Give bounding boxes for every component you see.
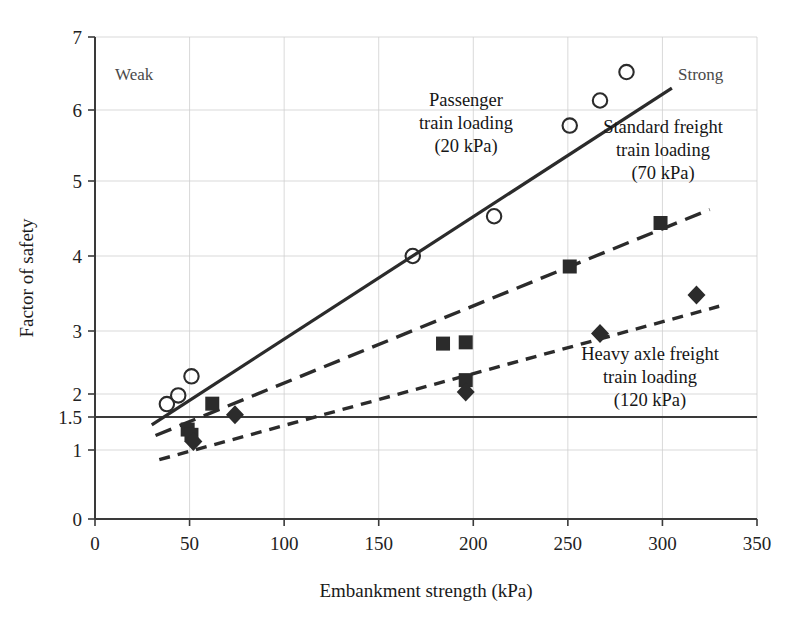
marker-open-circle (619, 65, 633, 79)
y-tick-label: 4 (73, 246, 83, 267)
x-tick-label: 250 (554, 533, 583, 554)
standard-freight-annotation: Standard freight train loading (70 kPa) (603, 117, 724, 184)
y-tick-label: 1.5 (58, 407, 82, 428)
heavy-axle-annotation-line-1: Heavy axle freight (581, 344, 720, 364)
y-tick-label: 7 (73, 27, 83, 48)
marker-open-circle (563, 118, 577, 132)
heavy-axle-annotation: Heavy axle freight train loading (120 kP… (581, 344, 720, 411)
passenger-annotation-line-2: train loading (419, 113, 513, 133)
passenger-annotation: Passenger train loading (20 kPa) (419, 90, 513, 157)
marker-open-circle (171, 388, 185, 402)
chart-container: 050100150200250300350011.5234567 Embankm… (0, 0, 804, 618)
y-tick-label: 1 (73, 440, 83, 461)
marker-open-circle (593, 93, 607, 107)
y-tick-label: 0 (73, 509, 83, 530)
y-axis-title: Factor of safety (16, 218, 37, 338)
x-tick-label: 50 (180, 533, 199, 554)
marker-filled-diamond (226, 405, 244, 424)
weak-label: Weak (115, 65, 154, 84)
x-tick-label: 200 (459, 533, 488, 554)
standard-freight-annotation-line-2: train loading (616, 140, 710, 160)
marker-filled-square (563, 260, 577, 274)
marker-open-circle (487, 209, 501, 223)
x-tick-label: 150 (364, 533, 393, 554)
y-tick-label: 2 (73, 384, 83, 405)
marker-filled-square (436, 337, 450, 351)
x-tick-label: 0 (90, 533, 100, 554)
y-tick-label: 3 (73, 321, 83, 342)
factor-of-safety-scatter-chart: 050100150200250300350011.5234567 Embankm… (0, 0, 804, 618)
marker-filled-square (205, 397, 219, 411)
marker-filled-square (459, 335, 473, 349)
tick-labels: 050100150200250300350011.5234567 (58, 27, 771, 554)
marker-filled-diamond (591, 324, 609, 343)
heavy-axle-annotation-line-3: (120 kPa) (614, 390, 686, 411)
strong-label: Strong (678, 65, 724, 84)
marker-filled-diamond (687, 286, 705, 305)
marker-filled-square (654, 216, 668, 230)
x-tick-label: 100 (270, 533, 299, 554)
passenger-annotation-line-3: (20 kPa) (434, 136, 497, 157)
standard-freight-annotation-line-1: Standard freight (603, 117, 724, 137)
passenger-annotation-line-1: Passenger (429, 90, 503, 110)
marker-open-circle (184, 369, 198, 383)
y-tick-label: 6 (73, 100, 83, 121)
standard-freight-annotation-line-3: (70 kPa) (631, 163, 694, 184)
x-axis-title: Embankment strength (kPa) (319, 580, 532, 602)
x-tick-label: 300 (648, 533, 677, 554)
y-tick-label: 5 (73, 171, 83, 192)
heavy-axle-annotation-line-2: train loading (603, 367, 697, 387)
x-tick-label: 350 (743, 533, 772, 554)
